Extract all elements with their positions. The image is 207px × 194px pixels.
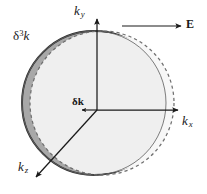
volume-element-label: δ3k	[13, 29, 29, 42]
ky-subscript: y	[81, 9, 85, 19]
kx-subscript: x	[189, 119, 193, 129]
k-symbol: k	[24, 28, 30, 43]
diagram-canvas	[0, 0, 207, 194]
ky-symbol: k	[74, 3, 80, 18]
kz-subscript: z	[25, 165, 28, 175]
electric-field-label: E	[186, 18, 194, 30]
kx-symbol: k	[182, 113, 188, 128]
kx-axis-label: kx	[182, 114, 193, 129]
shift-vector-label: δk	[72, 96, 84, 107]
fermi-sphere-diagram: ky kx kz E δ3k δk	[0, 0, 207, 194]
kz-symbol: k	[18, 159, 24, 174]
kz-axis-label: kz	[18, 160, 28, 175]
ky-axis-label: ky	[74, 4, 85, 19]
